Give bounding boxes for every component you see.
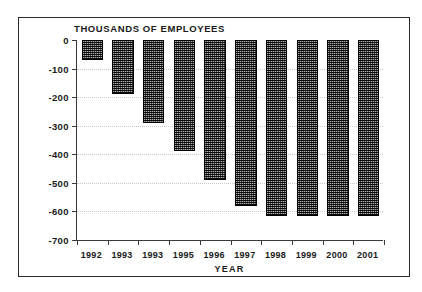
- y-axis-tick-label: -500: [48, 177, 69, 188]
- chart-title: THOUSANDS OF EMPLOYEES: [74, 23, 225, 34]
- x-axis-tick: [200, 240, 201, 245]
- bar: [174, 40, 195, 151]
- y-axis-tick-label: -200: [48, 92, 69, 103]
- y-axis-tick-label: -100: [48, 63, 69, 74]
- x-axis-tick: [353, 240, 354, 245]
- bar: [266, 40, 287, 216]
- chart-figure: THOUSANDS OF EMPLOYEES 0-100-200-300-400…: [0, 0, 422, 292]
- y-axis-tick-label: -700: [48, 235, 69, 246]
- y-axis-tick-label: -300: [48, 120, 69, 131]
- x-axis-tick-label: 1992: [81, 250, 102, 260]
- x-axis-tick-label: 1993: [111, 250, 132, 260]
- x-axis-tick: [138, 240, 139, 245]
- y-axis-tick-label: -600: [48, 206, 69, 217]
- x-axis-tick: [231, 240, 232, 245]
- bar: [358, 40, 379, 216]
- bar: [112, 40, 133, 94]
- x-axis-tick: [323, 240, 324, 245]
- y-axis-tick: [72, 40, 77, 41]
- y-axis-tick-label: 0: [63, 35, 69, 46]
- y-axis-tick: [72, 183, 77, 184]
- x-axis-line: [76, 240, 383, 241]
- x-axis-tick-label: 1993: [142, 250, 163, 260]
- x-axis-tick-label: 2001: [357, 250, 378, 260]
- plot-area: 0-100-200-300-400-500-600-700: [76, 40, 383, 240]
- bar: [327, 40, 348, 216]
- x-axis-tick-label: 1996: [204, 250, 225, 260]
- x-axis-tick: [261, 240, 262, 245]
- bar: [235, 40, 256, 206]
- x-axis-tick-label: 1995: [173, 250, 194, 260]
- x-axis-tick-label: 1997: [234, 250, 255, 260]
- bar: [297, 40, 318, 216]
- y-axis-tick: [72, 154, 77, 155]
- x-axis-tick: [292, 240, 293, 245]
- bar: [143, 40, 164, 123]
- y-axis-tick-label: -400: [48, 149, 69, 160]
- y-axis-tick: [72, 97, 77, 98]
- y-axis-tick: [72, 126, 77, 127]
- x-axis-tick-label: 1998: [265, 250, 286, 260]
- x-axis-tick: [169, 240, 170, 245]
- x-axis-tick: [384, 240, 385, 245]
- bar: [82, 40, 103, 60]
- x-axis-title: YEAR: [76, 264, 383, 274]
- x-axis-tick: [108, 240, 109, 245]
- y-axis-tick: [72, 69, 77, 70]
- x-axis-tick-label: 1999: [296, 250, 317, 260]
- bar: [204, 40, 225, 180]
- x-axis-tick: [77, 240, 78, 245]
- x-axis-tick-label: 2000: [326, 250, 347, 260]
- y-axis-tick: [72, 211, 77, 212]
